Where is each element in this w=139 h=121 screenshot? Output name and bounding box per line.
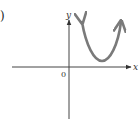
origin-label: 0 [61,70,66,79]
parabola-curve [82,22,121,61]
graph: y x 0 [0,0,139,121]
x-axis-label: x [133,62,138,72]
y-axis-label: y [65,10,72,20]
